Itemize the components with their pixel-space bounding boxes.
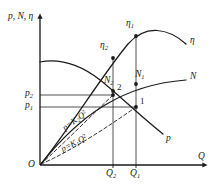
origin-label: O xyxy=(28,160,35,170)
y-axis-label: p, N, η xyxy=(8,12,33,22)
marker-eta2-sub: 2 xyxy=(105,44,108,51)
y-tick-p1-sub: 1 xyxy=(30,104,33,111)
curve-label-p: p xyxy=(166,134,171,144)
x-axis-label: Q xyxy=(198,152,205,162)
x-tick-label-q1: Q1 xyxy=(130,169,140,179)
curve-resistance-k2 xyxy=(41,95,113,164)
marker-label-point-1: 1 xyxy=(140,97,145,106)
y-tick-p2-sub: 2 xyxy=(30,92,33,99)
marker-label-N1: N1 xyxy=(135,70,145,80)
curve-label-eta: η xyxy=(190,36,195,46)
marker-N2-sub: 2 xyxy=(110,79,113,86)
curve-label-N: N xyxy=(190,72,196,82)
marker-point-1 xyxy=(134,105,138,109)
x-tick-label-q2: Q2 xyxy=(106,169,116,179)
y-tick-label-p1: p1 xyxy=(25,101,33,111)
marker-label-eta2: η2 xyxy=(100,41,108,51)
x-tick-q1-sub: 1 xyxy=(137,172,140,179)
x-tick-q2-base: Q xyxy=(106,168,113,178)
x-tick-q1-base: Q xyxy=(130,168,137,178)
marker-eta1-sub: 1 xyxy=(131,22,134,29)
marker-N1 xyxy=(134,82,138,86)
marker-label-eta1: η1 xyxy=(126,19,134,29)
marker-label-point-2: 2 xyxy=(117,83,122,92)
marker-eta2 xyxy=(111,56,115,60)
marker-N2 xyxy=(111,89,115,93)
marker-point-2 xyxy=(111,93,115,97)
marker-label-N2: N2 xyxy=(104,76,114,86)
marker-N1-sub: 1 xyxy=(141,73,144,80)
x-tick-q2-sub: 2 xyxy=(113,172,116,179)
marker-eta1 xyxy=(134,34,138,38)
y-tick-label-p2: p2 xyxy=(25,89,33,99)
pump-characteristic-diagram: p, N, η Q O p2 p1 Q2 Q1 η N p η1 η2 N1 N… xyxy=(0,0,215,189)
